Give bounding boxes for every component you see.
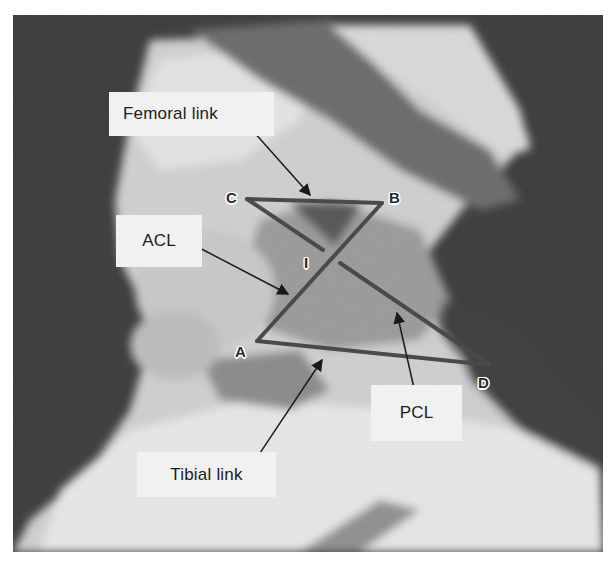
pcl-text: PCL	[400, 403, 434, 423]
pcl-label: PCL	[371, 385, 462, 441]
knee-photograph: Femoral link ACL Tibial link PCL C B I A…	[13, 15, 603, 552]
point-a-label: A	[235, 343, 246, 360]
point-d-label: D	[478, 374, 489, 391]
point-i-label: I	[304, 254, 308, 271]
femoral-link-label: Femoral link	[109, 92, 274, 136]
knee-anatomy-illustration	[13, 15, 603, 552]
tibial-link-label: Tibial link	[137, 452, 276, 497]
femoral-link-text: Femoral link	[123, 104, 218, 124]
tibial-link-text: Tibial link	[170, 465, 242, 485]
acl-text: ACL	[142, 231, 176, 251]
point-c-label: C	[226, 189, 237, 206]
point-b-label: B	[389, 189, 400, 206]
acl-label: ACL	[116, 215, 202, 267]
